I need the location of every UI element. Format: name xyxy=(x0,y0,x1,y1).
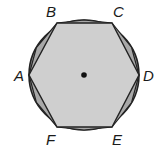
label-c: C xyxy=(113,3,124,20)
hexagon-in-circle-diagram: A B C D E F xyxy=(0,0,167,157)
label-d: D xyxy=(143,67,154,84)
label-b: B xyxy=(46,3,56,20)
label-f: F xyxy=(46,131,56,148)
center-point xyxy=(81,72,87,78)
label-e: E xyxy=(112,131,123,148)
label-a: A xyxy=(13,67,24,84)
